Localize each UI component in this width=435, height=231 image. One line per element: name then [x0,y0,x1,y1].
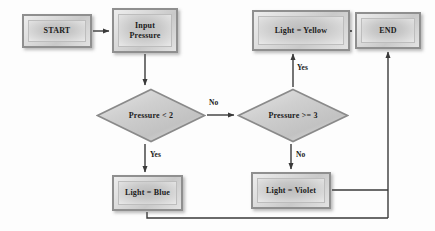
node-light-violet-label: Light = Violet [264,186,318,196]
flowchart-canvas: Pressure>=3 --> Light=Blue --> Light=Yel… [0,0,435,231]
node-light-violet[interactable]: Light = Violet [251,172,331,209]
node-start-label: START [42,26,73,36]
node-input-pressure[interactable]: Input Pressure [112,8,178,53]
node-decision-pressure-lt-2-label: Pressure < 2 [96,88,206,143]
node-end-inner: END [361,18,415,43]
node-end[interactable]: END [355,12,421,49]
node-decision-pressure-lt-2[interactable]: Pressure < 2 [96,88,206,143]
node-light-yellow[interactable]: Light = Yellow [252,10,350,51]
node-light-blue-inner: Light = Blue [118,181,177,205]
node-input-pressure-label-line2: Pressure [129,31,160,40]
node-decision-pressure-gte-3-label: Pressure >= 3 [237,88,349,143]
edge-label-lt2-yes: Yes [150,150,161,159]
node-start[interactable]: START [22,14,92,48]
node-light-yellow-label: Light = Yellow [273,26,329,36]
node-input-pressure-label: Input Pressure [127,21,162,41]
edge-light-blue-to-end [147,212,388,218]
edge-label-lt2-no: No [209,98,218,107]
edge-label-gte3-no: No [296,150,305,159]
node-end-label: END [377,26,399,36]
node-light-violet-inner: Light = Violet [257,178,325,203]
node-input-pressure-label-line1: Input [135,21,155,30]
edge-label-gte3-yes: Yes [297,63,308,72]
node-light-yellow-inner: Light = Yellow [258,16,344,45]
node-input-pressure-inner: Input Pressure [118,14,172,47]
node-start-inner: START [28,20,86,42]
node-decision-pressure-gte-3[interactable]: Pressure >= 3 [237,88,349,143]
node-light-blue-label: Light = Blue [123,188,172,198]
node-light-blue[interactable]: Light = Blue [112,175,183,211]
